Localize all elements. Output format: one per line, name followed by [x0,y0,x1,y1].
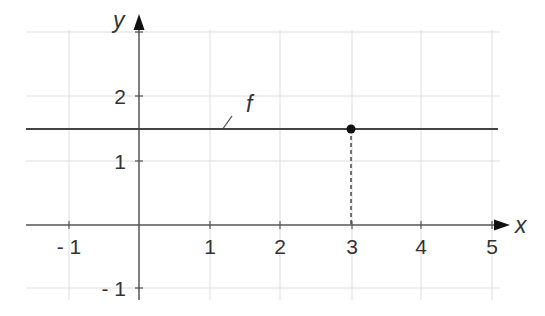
x-axis-label: x [514,212,528,238]
x-tick-label: - 1 [57,235,82,258]
y-axis-arrow-icon [134,14,145,30]
y-tick-label: 2 [114,85,126,108]
x-tick-label: 5 [486,235,498,258]
x-tick-label: 1 [204,235,216,258]
grid [26,30,500,300]
point-marker [347,125,356,134]
y-axis-label: y [111,7,126,33]
function-plot: y x f - 1 1 2 3 4 5 2 1 - 1 [0,0,545,316]
x-tick-label: 2 [274,235,286,258]
x-tick-label: 4 [415,235,427,258]
x-axis-arrow-icon [494,220,510,231]
y-tick-label: - 1 [101,277,126,300]
x-axis [26,220,510,231]
y-tick-label: 1 [114,150,126,173]
function-f-label: f [246,91,255,117]
x-tick-label: 3 [346,235,358,258]
y-axis [134,14,145,300]
